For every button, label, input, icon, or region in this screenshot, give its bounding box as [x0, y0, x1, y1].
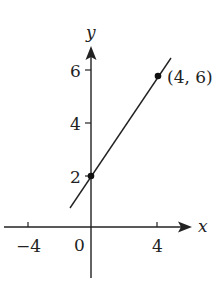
plot-line — [70, 58, 171, 208]
y-axis-label: y — [85, 22, 96, 42]
point-4-6 — [155, 73, 162, 80]
y-tick-label-4: 4 — [70, 114, 81, 134]
point-y-intercept — [88, 173, 95, 180]
x-axis-label: x — [198, 216, 208, 236]
x-tick-label-4: 4 — [152, 236, 163, 256]
origin-label: 0 — [74, 235, 85, 255]
point-label: (4, 6) — [167, 67, 213, 87]
y-tick-label-2: 2 — [70, 167, 81, 187]
x-tick-label-neg4: −4 — [16, 236, 41, 256]
y-tick-label-6: 6 — [70, 61, 81, 81]
y-axis — [85, 46, 97, 278]
x-axis — [4, 222, 192, 233]
coordinate-graph: y x 6 4 2 −4 0 4 (4, 6) — [0, 0, 222, 284]
